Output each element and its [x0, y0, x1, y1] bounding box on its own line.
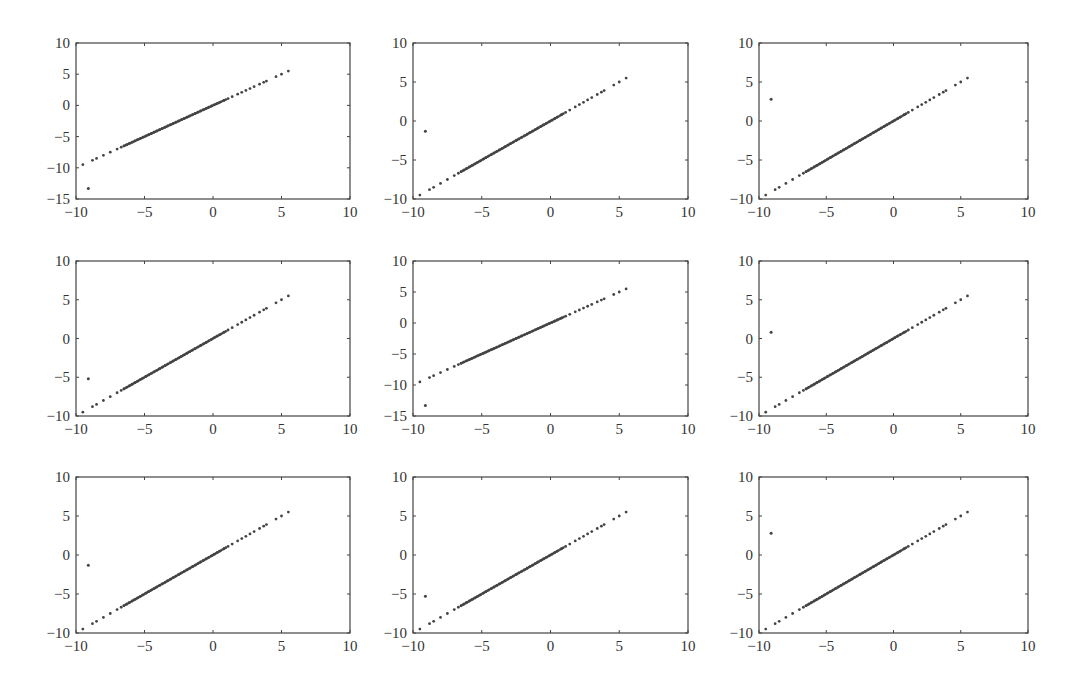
- data-point: [562, 546, 565, 549]
- data-point: [225, 330, 228, 333]
- y-tick-label: 10: [738, 35, 753, 51]
- data-point: [231, 326, 234, 329]
- axes-frame: [413, 261, 688, 416]
- axes-frame: [76, 43, 350, 199]
- data-point: [954, 301, 957, 304]
- data-point: [568, 313, 571, 316]
- data-point: [457, 172, 460, 175]
- data-point: [275, 518, 278, 521]
- data-point: [612, 293, 615, 296]
- data-point: [81, 411, 84, 414]
- x-tick-label: 10: [343, 638, 358, 654]
- x-tick-label: −5: [818, 204, 834, 220]
- data-point: [778, 620, 781, 623]
- y-tick-label: 5: [400, 508, 408, 524]
- y-tick-label: 5: [63, 292, 71, 308]
- y-tick-label: −10: [47, 408, 70, 424]
- data-point: [81, 163, 84, 166]
- data-point: [280, 515, 283, 518]
- x-tick-label: −5: [818, 421, 834, 437]
- data-point: [287, 70, 290, 73]
- x-tick-label: 5: [616, 421, 624, 437]
- data-point: [253, 530, 256, 533]
- data-point: [928, 99, 931, 102]
- data-point: [91, 159, 94, 162]
- y-tick-label: −10: [730, 625, 753, 641]
- outlier-point: [424, 130, 427, 133]
- data-point: [612, 84, 615, 87]
- x-tick-label: 0: [890, 421, 898, 437]
- data-point: [244, 319, 247, 322]
- outlier-point: [87, 377, 90, 380]
- data-point: [916, 323, 919, 326]
- data-point: [109, 395, 112, 398]
- x-tick-label: 0: [547, 204, 555, 220]
- y-tick-label: 10: [392, 469, 407, 485]
- x-tick-label: −5: [474, 204, 490, 220]
- data-point: [966, 77, 969, 80]
- data-point: [262, 525, 265, 528]
- data-point: [578, 103, 581, 106]
- data-point: [911, 543, 914, 546]
- data-point: [568, 543, 571, 546]
- y-tick-label: −5: [737, 586, 753, 602]
- data-point: [928, 533, 931, 536]
- data-point: [582, 535, 585, 538]
- data-point: [262, 81, 265, 84]
- data-point: [928, 316, 931, 319]
- data-point: [916, 106, 919, 109]
- data-point: [574, 106, 577, 109]
- data-point: [244, 535, 247, 538]
- data-point: [954, 518, 957, 521]
- data-point: [109, 612, 112, 615]
- data-point: [586, 305, 589, 308]
- x-tick-label: −5: [474, 638, 490, 654]
- y-tick-label: 10: [392, 253, 407, 269]
- data-point: [578, 537, 581, 540]
- data-point: [905, 330, 908, 333]
- y-tick-label: 0: [746, 331, 754, 347]
- y-tick-label: −5: [737, 369, 753, 385]
- data-point: [590, 303, 593, 306]
- data-point: [446, 612, 449, 615]
- data-point: [249, 87, 252, 90]
- data-point: [275, 301, 278, 304]
- data-point: [418, 381, 421, 384]
- data-point: [258, 83, 261, 86]
- x-tick-label: 10: [1021, 204, 1036, 220]
- x-tick-label: 10: [1021, 638, 1036, 654]
- y-tick-label: −5: [391, 586, 407, 602]
- data-point: [911, 109, 914, 112]
- data-point: [562, 112, 565, 115]
- y-tick-label: −10: [730, 191, 753, 207]
- subplot-1: −10−505101050−5−10−15: [47, 35, 358, 220]
- x-tick-label: 10: [681, 421, 696, 437]
- data-point: [924, 101, 927, 104]
- y-tick-label: 10: [738, 469, 753, 485]
- data-point: [457, 363, 460, 366]
- data-point: [945, 523, 948, 526]
- data-point: [612, 518, 615, 521]
- data-point: [916, 540, 919, 543]
- subplot-7: −10−505101050−5−10: [47, 469, 358, 654]
- x-tick-label: 5: [616, 204, 624, 220]
- data-point: [280, 298, 283, 301]
- data-point: [446, 368, 449, 371]
- scatter-points: [418, 77, 627, 197]
- data-point: [785, 616, 788, 619]
- data-point: [625, 288, 628, 291]
- data-point: [120, 606, 123, 609]
- x-tick-label: 10: [343, 204, 358, 220]
- scatter-points: [81, 70, 289, 166]
- data-point: [798, 174, 801, 177]
- outlier-point: [424, 595, 427, 598]
- y-tick-label: 10: [55, 35, 70, 51]
- data-point: [428, 376, 431, 379]
- data-point: [603, 297, 606, 300]
- data-point: [240, 321, 243, 324]
- y-tick-label: −10: [384, 625, 407, 641]
- scatter-figure-grid: −10−505101050−5−10−15−10−505101050−5−10−…: [0, 0, 1078, 698]
- data-point: [938, 93, 941, 96]
- data-point: [596, 527, 599, 530]
- y-tick-label: 10: [392, 35, 407, 51]
